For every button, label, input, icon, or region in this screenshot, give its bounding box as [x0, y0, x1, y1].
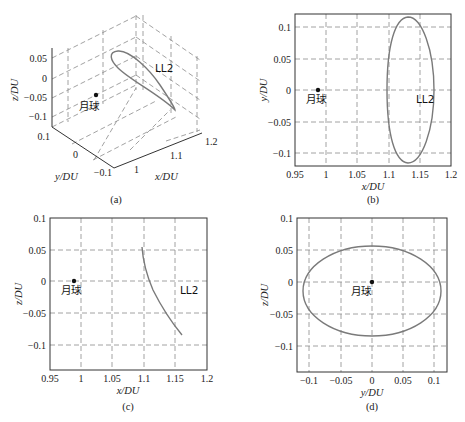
y-tick: 0.1	[428, 375, 441, 386]
ll2-label-a: LL2	[155, 62, 173, 74]
z-axis-label: z/DU	[13, 281, 24, 306]
moon-label-c: 月球	[61, 284, 82, 296]
z-tick: −0.1	[29, 111, 47, 122]
z-tick: 0.1	[281, 213, 294, 224]
caption-b: (b)	[367, 194, 380, 206]
caption-a: (a)	[110, 194, 122, 206]
y-tick: 0	[73, 149, 78, 160]
subplot-b: 月球 LL2 0.1 0.05 0 −0.05 −0.1 0.95 1 1.05…	[258, 14, 457, 206]
x-tick: 1.1	[138, 373, 151, 384]
z-tick: 0	[41, 276, 46, 287]
x-tick: 1.2	[205, 136, 218, 147]
x-tick: 1	[79, 373, 84, 384]
y-tick: −0.1	[94, 167, 112, 178]
subplot-a: 月球 LL2 0.05 0 −0.05 −0.1 z/DU 0.1 0 −0.1…	[9, 15, 218, 206]
y-tick: −0.1	[273, 148, 291, 159]
x-tick: 0.95	[286, 169, 304, 180]
z-tick: −0.1	[28, 340, 46, 351]
x-tick: 1.1	[383, 169, 396, 180]
y-tick: −0.05	[329, 375, 352, 386]
x-tick: 1.15	[166, 373, 184, 384]
x-tick: 1.2	[201, 373, 214, 384]
z-tick: −0.05	[23, 308, 46, 319]
x-axis-label: x/DU	[361, 181, 386, 192]
x-tick: 1	[134, 164, 139, 175]
y-tick: 0.05	[274, 54, 292, 65]
z-tick: −0.05	[24, 92, 47, 103]
x-tick: 1.15	[411, 169, 429, 180]
orbit-curve-c	[142, 247, 182, 335]
x-tick: 1.05	[103, 373, 121, 384]
ll2-label-b: LL2	[416, 93, 434, 105]
y-tick: 0.1	[279, 22, 292, 33]
x-tick: 1	[324, 169, 329, 180]
y-tick: 0.1	[38, 131, 51, 142]
x-tick: 1.1	[170, 150, 183, 161]
y-tick: 0.05	[394, 375, 412, 386]
moon-label-d: 月球	[351, 285, 372, 297]
subplot-c: 月球 LL2 0.1 0.05 0 −0.05 −0.1 0.95 1 1.05…	[13, 213, 213, 413]
moon-marker-c	[72, 279, 76, 283]
z-axis-label: z/DU	[259, 282, 270, 307]
z-tick: −0.1	[275, 341, 293, 352]
z-tick: 0	[288, 277, 293, 288]
moon-marker-d	[370, 280, 374, 284]
z-tick: 0.05	[29, 245, 47, 256]
y-axis-label: y/DU	[258, 77, 269, 102]
y-tick: 0	[286, 85, 291, 96]
figure-canvas: 月球 LL2 0.05 0 −0.05 −0.1 z/DU 0.1 0 −0.1…	[0, 0, 465, 422]
y-tick: −0.1	[300, 375, 318, 386]
x-axis-label: x/DU	[154, 171, 179, 182]
subplot-d: 月球 0.1 0.05 0 −0.05 −0.1 −0.1 −0.05 0 0.…	[259, 213, 447, 413]
y-axis-label: y/DU	[54, 171, 79, 182]
z-tick: 0	[42, 73, 47, 84]
x-tick: 1.2	[445, 169, 458, 180]
z-tick: −0.05	[270, 309, 293, 320]
z-tick: 0.05	[276, 245, 294, 256]
caption-d: (d)	[366, 401, 379, 413]
grid-3d	[52, 15, 200, 160]
y-axis-label: y/DU	[360, 387, 385, 398]
moon-label-b: 月球	[306, 93, 327, 105]
z-tick: 0.1	[34, 213, 47, 224]
caption-c: (c)	[122, 401, 134, 413]
moon-label-a: 月球	[79, 100, 100, 112]
z-tick: 0.05	[30, 53, 48, 64]
ll2-label-c: LL2	[180, 284, 198, 296]
moon-marker-a	[94, 93, 98, 97]
x-axis-label: x/DU	[116, 385, 141, 396]
moon-marker-b	[316, 88, 320, 92]
z-axis-label: z/DU	[9, 77, 20, 102]
x-tick: 0.95	[41, 373, 59, 384]
y-tick: 0	[370, 375, 375, 386]
y-tick: −0.05	[268, 117, 291, 128]
x-tick: 1.05	[348, 169, 366, 180]
grid-d	[297, 218, 447, 372]
